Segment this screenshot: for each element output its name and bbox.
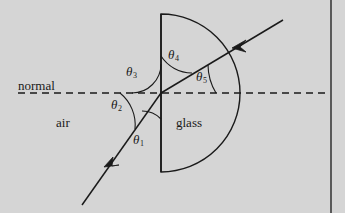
theta5-arc xyxy=(208,65,216,93)
theta3-symbol: θ xyxy=(126,64,132,79)
theta3-subscript: 3 xyxy=(133,71,137,80)
theta3-label: θ3 xyxy=(126,65,136,78)
air-region-label: air xyxy=(56,116,70,129)
refraction-diagram xyxy=(0,0,345,213)
theta4-symbol: θ xyxy=(168,47,174,62)
refracted-exit-ray xyxy=(161,20,283,93)
theta2-subscript: 2 xyxy=(118,104,122,113)
theta5-symbol: θ xyxy=(196,69,202,84)
exit-ray-arrowhead xyxy=(232,40,246,52)
glass-region-label: glass xyxy=(176,116,202,129)
theta1-symbol: θ xyxy=(133,132,139,147)
theta1-subscript: 1 xyxy=(140,139,144,148)
theta2-symbol: θ xyxy=(111,97,117,112)
theta2-label: θ2 xyxy=(111,98,121,111)
theta5-label: θ5 xyxy=(196,70,206,83)
incident-ray-arrowhead xyxy=(104,157,119,167)
theta4-subscript: 4 xyxy=(175,54,179,63)
theta1-label: θ1 xyxy=(133,133,143,146)
normal-label: normal xyxy=(18,79,55,92)
theta5-subscript: 5 xyxy=(203,76,207,85)
theta2-arc xyxy=(120,93,135,129)
theta4-label: θ4 xyxy=(168,48,178,61)
